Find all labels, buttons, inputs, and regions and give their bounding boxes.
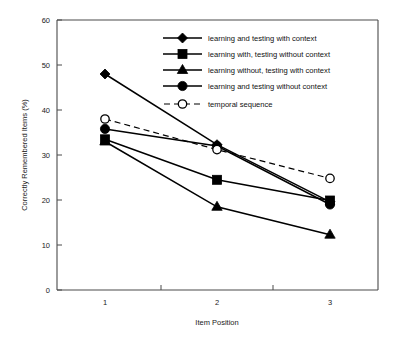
y-tick-label: 50 (42, 61, 50, 70)
y-axis-tick-labels: 60 50 40 30 20 10 0 (42, 16, 50, 295)
legend-label: temporal sequence (208, 100, 273, 109)
y-axis-ticks (57, 20, 62, 290)
y-tick-label: 20 (42, 196, 50, 205)
legend-entry-1: learning with, testing without context (163, 50, 331, 60)
x-axis-title: Item Position (195, 318, 238, 327)
legend-entry-2: learning without, testing with context (163, 65, 331, 76)
triangle-icon (177, 65, 187, 74)
legend-label: learning with, testing without context (208, 50, 331, 59)
x-tick-label: 2 (215, 298, 219, 307)
legend-entry-0: learning and testing with context (163, 33, 317, 43)
y-tick-label: 30 (42, 151, 50, 160)
legend-label: learning and testing without context (208, 82, 328, 91)
x-tick-label: 3 (328, 298, 332, 307)
circle-icon (178, 81, 187, 90)
y-tick-label: 10 (42, 241, 50, 250)
y-axis-title: Correctly Remembered Items (%) (20, 99, 29, 211)
series-learning-and-testing-without-context (100, 124, 334, 209)
plot-frame (57, 20, 378, 290)
diamond-icon (178, 33, 188, 43)
x-axis-ticks (161, 285, 273, 290)
x-tick-label: 1 (103, 298, 107, 307)
open-circle-icon (178, 100, 186, 108)
x-axis-tick-labels: 1 2 3 (103, 298, 332, 307)
square-icon (178, 50, 187, 59)
y-tick-label: 60 (42, 16, 50, 25)
line-chart: 60 50 40 30 20 10 0 Correctly Remembered… (0, 0, 400, 343)
chart-figure: 60 50 40 30 20 10 0 Correctly Remembered… (0, 0, 400, 343)
series-temporal-sequence (101, 115, 334, 183)
legend-label: learning without, testing with context (208, 66, 331, 75)
chart-legend: learning and testing with context learni… (163, 33, 331, 109)
y-tick-label: 0 (46, 286, 50, 295)
legend-entry-4: temporal sequence (164, 100, 273, 109)
legend-label: learning and testing with context (208, 34, 317, 43)
legend-entry-3: learning and testing without context (163, 81, 328, 91)
y-tick-label: 40 (42, 106, 50, 115)
